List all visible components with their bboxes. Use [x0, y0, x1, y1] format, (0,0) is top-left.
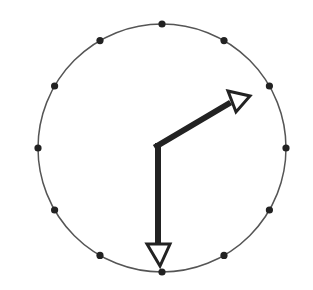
hour-markers	[34, 20, 289, 275]
hour-marker-dot	[34, 144, 41, 151]
minute-hand	[147, 143, 170, 266]
hour-marker-dot	[96, 252, 103, 259]
hour-marker-dot	[266, 82, 273, 89]
hour-marker-dot	[282, 144, 289, 151]
clock-diagram	[0, 0, 313, 290]
hour-marker-dot	[96, 37, 103, 44]
hour-marker-dot	[220, 252, 227, 259]
clock-face	[38, 24, 286, 272]
hour-marker-dot	[158, 20, 165, 27]
hour-marker-dot	[266, 206, 273, 213]
hour-marker-dot	[51, 82, 58, 89]
hour-hand	[157, 91, 250, 150]
hour-marker-dot	[220, 37, 227, 44]
hour-marker-dot	[51, 206, 58, 213]
hour-marker-dot	[158, 268, 165, 275]
